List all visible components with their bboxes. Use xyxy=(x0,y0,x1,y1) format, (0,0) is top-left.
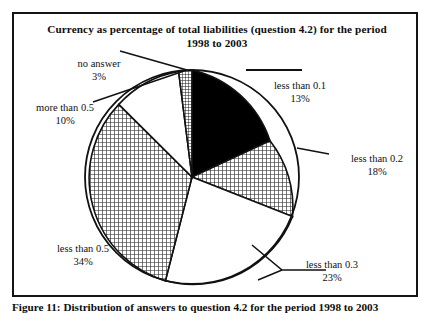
figure-container: Currency as percentage of total liabilit… xyxy=(0,0,434,319)
pie-label-no-answer: no answer 3% xyxy=(60,58,138,83)
pie-label-no-answer-name: no answer xyxy=(60,58,138,71)
pie-label-less-than-0-3: less than 0.3 23% xyxy=(289,259,375,284)
pie-label-less-than-0-2-name: less than 0.2 xyxy=(334,153,420,166)
leader-line-less-than-0-3b xyxy=(258,270,282,280)
pie-label-less-than-0-3-name: less than 0.3 xyxy=(289,259,375,272)
pie-label-less-than-0-3-value: 23% xyxy=(289,272,375,285)
pie-label-more-than-0-5-value: 10% xyxy=(22,115,108,128)
pie-label-less-than-0-2: less than 0.2 18% xyxy=(334,153,420,178)
pie-label-more-than-0-5: more than 0.5 10% xyxy=(22,102,108,127)
pie-label-less-than-0-5-name: less than 0.5 xyxy=(40,243,126,256)
pie-label-more-than-0-5-name: more than 0.5 xyxy=(22,102,108,115)
pie-label-less-than-0-1-name: less than 0.1 xyxy=(257,80,343,93)
figure-caption: Figure 11: Distribution of answers to qu… xyxy=(12,300,432,314)
pie-label-less-than-0-2-value: 18% xyxy=(334,166,420,179)
chart-frame: Currency as percentage of total liabilit… xyxy=(12,12,418,297)
leader-line-less-than-0-2 xyxy=(297,148,329,154)
pie-label-less-than-0-1: less than 0.1 13% xyxy=(257,80,343,105)
pie-label-less-than-0-5: less than 0.5 34% xyxy=(40,243,126,268)
pie-label-less-than-0-1-value: 13% xyxy=(257,93,343,106)
pie-label-no-answer-value: 3% xyxy=(60,71,138,84)
pie-label-less-than-0-5-value: 34% xyxy=(40,256,126,269)
